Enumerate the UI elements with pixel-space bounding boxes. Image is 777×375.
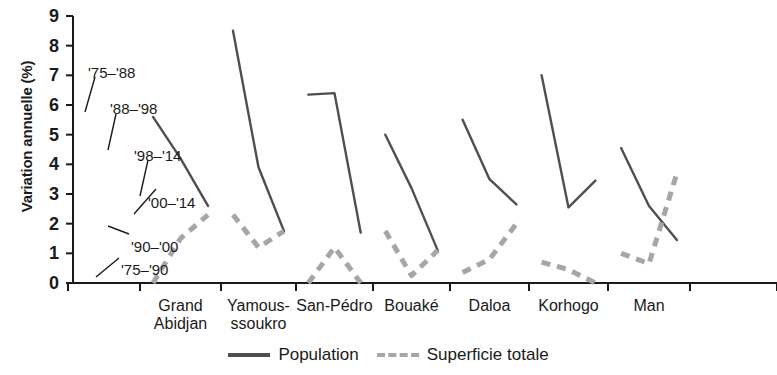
- legend-line-dashed-icon: [377, 353, 419, 357]
- series-superficie-group-2: [308, 247, 360, 283]
- series-superficie-group-5: [542, 262, 596, 283]
- annotation-period-5: '75–'90: [121, 262, 168, 277]
- series-superficie-group-1: [233, 215, 284, 248]
- series-superficie-group-4: [463, 224, 517, 273]
- series-superficie-group-6: [621, 173, 677, 264]
- y-axis-tick-1: 1: [37, 244, 59, 262]
- series-superficie-group-3: [385, 231, 437, 276]
- annotation-leader-2: [140, 160, 148, 196]
- y-axis-tick-6: 6: [37, 96, 59, 114]
- legend-line-solid-icon: [228, 353, 270, 357]
- annotation-period-4: '90–'00: [131, 239, 178, 254]
- y-axis-tick-3: 3: [37, 185, 59, 203]
- series-population-group-5: [542, 75, 596, 207]
- legend-item-superficie-totale[interactable]: Superficie totale: [377, 345, 549, 365]
- data-series-layer: [153, 31, 677, 283]
- legend-label-population: Population: [278, 345, 358, 365]
- annotation-leader-5: [96, 258, 119, 277]
- series-population-group-1: [233, 31, 284, 231]
- chart-container: Variation annuelle (%) 0123456789 Grand …: [0, 0, 777, 375]
- annotation-period-2: '98–'14: [134, 148, 181, 163]
- y-axis-tick-5: 5: [37, 126, 59, 144]
- annotation-leader-4: [108, 226, 129, 234]
- annotation-period-0: '75–'88: [88, 65, 135, 80]
- x-axis-label-man: Man: [568, 297, 730, 315]
- annotation-period-1: '88–'98: [110, 101, 157, 116]
- y-axis-tick-4: 4: [37, 155, 59, 173]
- annotation-leader-1: [108, 114, 116, 150]
- series-population-group-3: [385, 135, 437, 251]
- chart-legend: Population Superficie totale: [0, 345, 777, 365]
- y-axis-tick-2: 2: [37, 215, 59, 233]
- series-population-group-2: [308, 93, 360, 233]
- series-population-group-4: [463, 120, 517, 205]
- y-axis-tick-9: 9: [37, 7, 59, 25]
- annotation-leader-0: [85, 77, 95, 112]
- y-axis-tick-7: 7: [37, 66, 59, 84]
- legend-label-superficie-totale: Superficie totale: [427, 345, 549, 365]
- y-axis-tick-8: 8: [37, 37, 59, 55]
- legend-item-population[interactable]: Population: [228, 345, 358, 365]
- y-axis-tick-0: 0: [37, 274, 59, 292]
- annotation-period-3: '00–'14: [148, 195, 195, 210]
